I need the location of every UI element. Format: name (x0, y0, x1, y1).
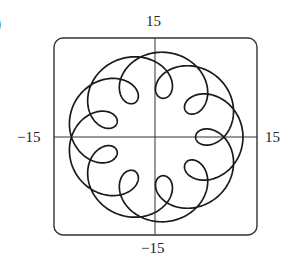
plot-area (0, 0, 294, 251)
